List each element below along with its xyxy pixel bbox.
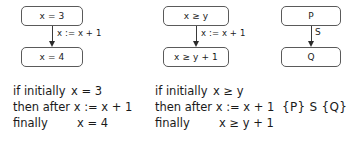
caption-expression: x := x + 1 (74, 99, 133, 115)
caption-line: if initiallyx = 3 (13, 83, 132, 99)
transition-arrow: S (281, 26, 341, 48)
statement-label: x := x + 1 (201, 28, 245, 38)
caption-line: then after x := x + 1 (155, 99, 274, 115)
postcondition-box: x ≥ y + 1 (163, 47, 229, 67)
caption-lead: if initially (13, 83, 71, 99)
caption-expression: x = 4 (77, 115, 108, 131)
caption-expression: x ≥ y (213, 83, 244, 99)
caption-row: if initiallyx = 3 then after x := x + 1 … (0, 78, 349, 144)
precondition-box: x = 3 (21, 6, 83, 26)
hoare-triple-figure: x = 3 x := x + 1 x = 4 x ≥ y x := x + 1 … (0, 0, 349, 144)
caption-lead: if initially (155, 83, 213, 99)
caption-line: finallyx = 4 (13, 115, 132, 131)
caption-expression: x ≥ y + 1 (219, 115, 274, 131)
precondition-box: P (281, 6, 341, 26)
caption-lead: then after (13, 99, 70, 115)
transition-arrow: x := x + 1 (163, 26, 229, 48)
statement-label: S (315, 27, 321, 37)
diagram-row: x = 3 x := x + 1 x = 4 x ≥ y x := x + 1 … (0, 0, 349, 74)
statement-label: x := x + 1 (57, 28, 101, 38)
postcondition-box: x = 4 (21, 47, 83, 67)
postcondition-box: Q (281, 47, 341, 67)
caption-lead: then after (155, 99, 212, 115)
transition-arrow: x := x + 1 (21, 26, 83, 48)
caption-expression: x := x + 1 (216, 99, 275, 115)
caption-symbolic: if initiallyx ≥ y then after x := x + 1 … (155, 83, 274, 131)
caption-concrete: if initiallyx = 3 then after x := x + 1 … (13, 83, 132, 131)
caption-hoare-triple: {P} S {Q} (282, 99, 347, 115)
caption-line: finallyx ≥ y + 1 (155, 115, 274, 131)
caption-line: then after x := x + 1 (13, 99, 132, 115)
caption-line: if initiallyx ≥ y (155, 83, 274, 99)
caption-lead: finally (155, 115, 219, 131)
caption-lead: finally (13, 115, 77, 131)
caption-expression: x = 3 (71, 83, 102, 99)
precondition-box: x ≥ y (163, 6, 229, 26)
